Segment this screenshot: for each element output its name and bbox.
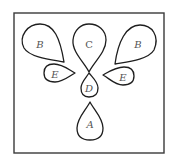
lobe-e-left: E — [44, 64, 75, 82]
lobe-b-left-label: B — [35, 39, 43, 50]
lobe-c: C — [73, 24, 106, 72]
lobe-e-right: E — [103, 67, 134, 85]
lobe-a-label: A — [85, 119, 93, 130]
lobe-d: D — [81, 73, 98, 97]
lobe-c-label: C — [85, 39, 93, 50]
lobe-a: A — [77, 102, 103, 140]
lobe-d-label: D — [84, 83, 93, 94]
lobe-e-left-label: E — [50, 69, 59, 80]
lobe-e-right-label: E — [118, 72, 127, 83]
orbital-diagram: B C B E E D A — [0, 0, 171, 159]
lobe-b-right-label: B — [133, 39, 141, 50]
lobe-b-right: B — [115, 25, 156, 64]
lobe-b-left: B — [22, 24, 64, 62]
